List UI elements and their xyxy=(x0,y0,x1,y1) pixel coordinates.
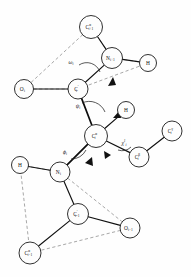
atom-circle-cb_i[interactable] xyxy=(129,147,149,167)
molecule-canvas: ωiψiϕiχ1i Cαi+1Ni+1HOiC′iHCαiCβiCγiHNiC′… xyxy=(0,0,191,277)
bond-n_i-cprime_im1 xyxy=(64,181,74,204)
atom-n_ip1[interactable]: Ni+1 xyxy=(102,48,123,69)
angle-arc-omega_i xyxy=(79,63,100,72)
atom-h_top[interactable]: H xyxy=(140,55,157,72)
atom-n_i[interactable]: Ni xyxy=(50,162,70,182)
atom-h_low[interactable]: H xyxy=(12,157,29,174)
angle-label-psi_i: ψi xyxy=(76,103,80,110)
atom-o_i[interactable]: Oi xyxy=(15,80,34,99)
atom-label-h_top: H xyxy=(146,60,150,66)
atom-cprime_im1[interactable]: C′i−1 xyxy=(68,204,89,225)
angle-label-phi_i: ϕi xyxy=(63,149,67,156)
bond-cprime_im1-ca_im1 xyxy=(39,221,70,246)
bond-cprime_im1-o_im1 xyxy=(88,217,120,226)
bond-n_ip1-cprime_i xyxy=(85,65,104,82)
angle-label-chi1_i: χ1i xyxy=(120,139,126,147)
angle-arrowhead-chi1_i xyxy=(104,151,111,159)
atom-layer: Cαi+1Ni+1HOiC′iHCαiCβiCγiHNiC′i−1Oi−1Cαi… xyxy=(12,16,183,265)
atom-cg_i[interactable]: Cγi xyxy=(162,121,182,141)
angle-arrowhead-phi_i xyxy=(85,157,93,166)
bond-cb_i-cg_i xyxy=(147,137,164,151)
atom-ca_im1[interactable]: Cαi−1 xyxy=(19,242,41,264)
angle-label-omega_i: ωi xyxy=(69,59,74,66)
bond-n_i-h_low xyxy=(28,166,50,170)
atom-label-h_low: H xyxy=(18,162,22,168)
atom-circle-cg_i[interactable] xyxy=(162,121,182,141)
atom-circle-cprime_i[interactable] xyxy=(68,79,88,99)
atom-label-h_mid: H xyxy=(124,107,128,113)
bond-ca_i-n_i xyxy=(67,144,88,165)
atom-cprime_i[interactable]: C′i xyxy=(68,79,88,99)
bond-ca_ip1-n_ip1 xyxy=(97,37,106,50)
atom-ca_ip1[interactable]: Cαi+1 xyxy=(80,16,103,39)
atom-h_mid[interactable]: H xyxy=(118,102,135,119)
atom-o_im1[interactable]: Oi−1 xyxy=(120,218,140,238)
angle-arrowhead-omega_i xyxy=(108,77,116,86)
atom-cb_i[interactable]: Cβi xyxy=(129,147,149,167)
atom-ca_i[interactable]: Cαi xyxy=(85,125,108,148)
peptide-backbone-diagram: ωiψiϕiχ1i Cαi+1Ni+1HOiC′iHCαiCβiCγiHNiC′… xyxy=(0,0,191,277)
atom-circle-ca_i[interactable] xyxy=(85,125,108,148)
bond-n_ip1-h_top xyxy=(122,59,139,61)
